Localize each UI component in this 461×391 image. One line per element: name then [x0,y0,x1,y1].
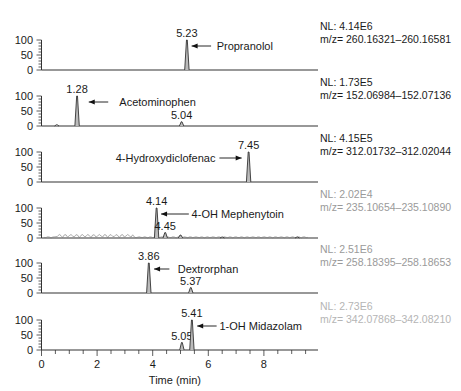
y-tick-label: 50 [21,49,33,61]
y-tick-label: 0 [27,176,33,188]
y-tick-label: 0 [27,287,33,299]
arrow-head-icon [154,267,160,272]
compound-label: Propranolol [217,40,273,52]
mz-range: m/z= 258.18395–258.18653 [320,256,451,269]
peak [179,122,183,126]
peak [163,233,167,238]
mz-range: m/z= 152.06984–152.07136 [320,89,451,102]
nl-value: NL: 2.73E6 [320,300,451,313]
peak-rt-label: 5.05 [171,330,192,342]
nl-value: NL: 4.15E5 [320,132,451,145]
mz-range: m/z= 312.01732–312.02044 [320,145,451,158]
y-tick-label: 100 [15,257,33,269]
compound-label: 4-Hydroxydiclofenac [116,152,216,164]
y-tick-label: 50 [21,329,33,341]
panel-info: NL: 4.15E5m/z= 312.01732–312.02044 [320,132,451,158]
mz-range: m/z= 342.07868–342.08210 [320,313,451,326]
x-tick-label: 2 [94,358,100,370]
peak [190,320,194,350]
panel-info: NL: 2.51E6m/z= 258.18395–258.18653 [320,243,451,269]
y-tick-label: 50 [21,272,33,284]
y-tick-label: 100 [15,146,33,158]
y-tick-label: 0 [27,64,33,76]
peak-rt-label: 5.23 [176,27,197,39]
peak-rt-label: 7.45 [238,139,259,151]
peak-rt-label: 5.37 [180,275,201,287]
peak-rt-label: 5.04 [171,109,192,121]
panel-info: NL: 4.14E6m/z= 260.16321–260.16581 [320,20,451,46]
peak-rt-label: 4.14 [146,195,167,207]
compound-label: 1-OH Midazolam [219,320,302,332]
y-tick-label: 100 [15,202,33,214]
x-axis-title: Time (min) [149,374,201,386]
peak [178,235,182,238]
y-tick-label: 0 [27,120,33,132]
nl-value: NL: 2.02E4 [320,188,451,201]
nl-value: NL: 1.73E5 [320,76,451,89]
peak [295,237,299,238]
arrow-head-icon [236,156,242,161]
peak [75,96,79,126]
peak-rt-label: 3.86 [138,250,159,262]
nl-value: NL: 4.14E6 [320,20,451,33]
peak [185,40,189,70]
mz-range: m/z= 235.10654–235.10890 [320,201,451,214]
mz-range: m/z= 260.16321–260.16581 [320,33,451,46]
peak [180,343,184,351]
y-tick-label: 100 [15,314,33,326]
arrow-head-icon [192,44,198,49]
panel-info: NL: 2.02E4m/z= 235.10654–235.10890 [320,188,451,214]
x-tick-label: 6 [205,358,211,370]
peak-rt-label: 5.41 [181,307,202,319]
panel-info: NL: 2.73E6m/z= 342.07868–342.08210 [320,300,451,326]
y-tick-label: 50 [21,217,33,229]
arrow-head-icon [89,100,95,105]
arrow-head-icon [161,212,167,217]
panel-info: NL: 1.73E5m/z= 152.06984–152.07136 [320,76,451,102]
peak-rt-label: 4.45 [154,220,175,232]
peak [220,237,224,238]
y-tick-label: 100 [15,34,33,46]
peak [55,125,59,126]
peak [147,263,151,293]
compound-label: 4-OH Mephenytoin [192,208,284,220]
peak [189,288,193,293]
y-tick-label: 50 [21,105,33,117]
x-tick-label: 0 [38,358,44,370]
x-tick-label: 8 [261,358,267,370]
y-tick-label: 0 [27,232,33,244]
y-tick-label: 0 [27,344,33,356]
peak [246,152,250,182]
x-tick-label: 4 [150,358,156,370]
peak-rt-label: 1.28 [66,83,87,95]
y-tick-label: 100 [15,90,33,102]
arrow-head-icon [197,324,203,329]
compound-label: Dextrorphan [178,263,239,275]
nl-value: NL: 2.51E6 [320,243,451,256]
y-tick-label: 50 [21,161,33,173]
compound-label: Acetominophen [119,96,195,108]
